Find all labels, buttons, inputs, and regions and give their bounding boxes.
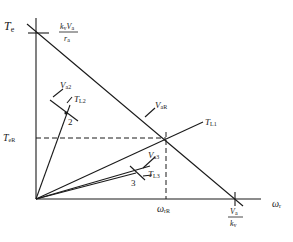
tl2-leader <box>67 97 72 103</box>
y-axis-label: Te <box>4 19 15 34</box>
point-2-label: 2 <box>68 117 73 127</box>
va2-leader <box>53 89 63 97</box>
load-line-tl1 <box>36 122 203 199</box>
va2-label: Va2 <box>60 80 71 90</box>
load-line-tl2 <box>36 105 70 199</box>
operating-speed-label: ωrR <box>157 203 170 214</box>
x-intercept-numerator: Va <box>230 207 238 216</box>
va3-label: Va3 <box>148 150 159 160</box>
var-label: VaR <box>155 100 167 110</box>
point-2-marker <box>64 111 67 114</box>
var-leader <box>145 108 155 117</box>
point-3-label: 3 <box>131 178 136 188</box>
y-intercept-denominator: ra <box>64 34 70 43</box>
tl2-label: TL2 <box>74 94 86 104</box>
operating-torque-label: TeR <box>3 132 15 143</box>
y-intercept-numerator: kvVa <box>60 22 74 31</box>
torque-speed-diagram: Te kvVa ra Va2 TL2 2 VaR TL1 TeR Va3 TL3… <box>0 0 293 242</box>
x-axis-label: ωr <box>272 198 281 209</box>
tl3-label: TL3 <box>148 169 160 179</box>
x-intercept-denominator: kv <box>230 219 237 228</box>
tl1-label: TL1 <box>205 117 217 127</box>
